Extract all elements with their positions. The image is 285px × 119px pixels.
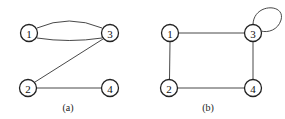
diagram-canvas: 1 3 2 4 (a) 1 3 2 [0, 0, 285, 119]
node-b-1: 1 [162, 25, 179, 42]
caption-a: (a) [62, 102, 73, 114]
node-a-1-label: 1 [26, 28, 32, 40]
node-b-1-label: 1 [167, 28, 173, 40]
edge-a-2-3 [35, 39, 103, 82]
node-a-4: 4 [102, 80, 119, 97]
node-a-2: 2 [20, 80, 37, 97]
node-a-3-label: 3 [107, 28, 113, 40]
node-b-4-label: 4 [250, 83, 256, 95]
node-b-2-label: 2 [166, 83, 172, 95]
node-b-2: 2 [161, 80, 178, 97]
edge-a-1-3-upper [37, 21, 102, 28]
node-b-3: 3 [245, 25, 262, 42]
node-a-2-label: 2 [25, 83, 31, 95]
node-b-3-label: 3 [250, 28, 256, 40]
node-a-3: 3 [102, 25, 119, 42]
node-b-4: 4 [245, 80, 262, 97]
node-a-1: 1 [21, 25, 38, 42]
node-a-4-label: 4 [107, 83, 113, 95]
graph-a: 1 3 2 4 (a) [20, 21, 119, 114]
graph-b: 1 3 2 4 (b) [161, 8, 282, 114]
caption-b: (b) [202, 102, 214, 114]
edge-a-1-3-lower [37, 38, 102, 41]
edge-b-1-2 [170, 42, 171, 80]
